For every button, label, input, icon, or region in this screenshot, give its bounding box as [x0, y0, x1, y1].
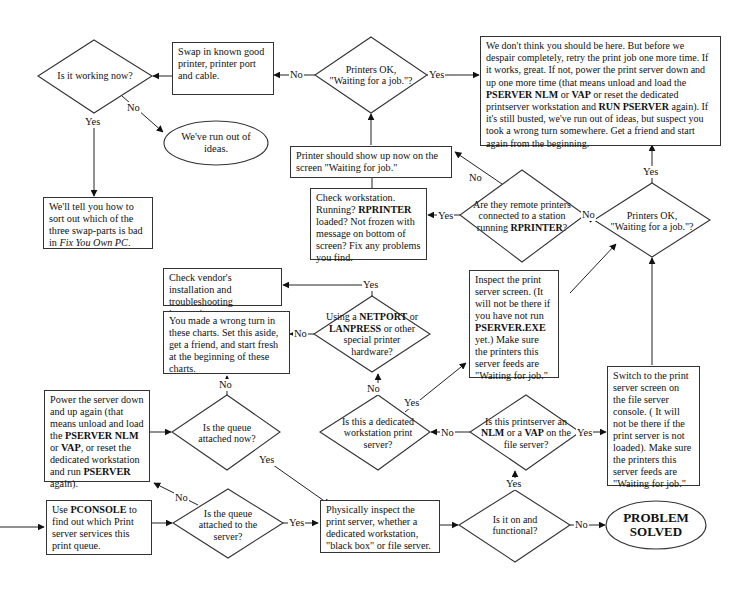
edge-label-no: No — [289, 69, 304, 81]
box-wrong-turn: You made a wrong turn in these charts. S… — [163, 311, 290, 374]
decision-nlm-or-vap: Is this printserver an NLM or a VAP on t… — [478, 405, 574, 461]
edge-label-yes: Yes — [258, 454, 275, 466]
box-check-workstation: Check workstation. Running? RPRINTER loa… — [310, 188, 427, 260]
box-swap-parts: Swap in known good printer, printer port… — [172, 42, 274, 95]
box-power-server: Power the server down and up again (that… — [44, 390, 150, 482]
edge-label-no: No — [366, 383, 381, 395]
decision-queue-attached-server: Is the queue attached to the server? — [190, 508, 266, 542]
terminal-run-out-of-ideas: We've run out of ideas. — [180, 128, 252, 158]
decision-printers-ok-right: Printers OK, "Waiting for a job."? — [602, 206, 702, 236]
box-printer-show-up: Printer should show up now on the screen… — [290, 146, 452, 178]
decision-dedicated-workstation: Is this a dedicated workstation print se… — [333, 410, 423, 456]
edge-label-yes: Yes — [84, 116, 101, 128]
box-inspect-screen: Inspect the print server screen. (It wil… — [469, 270, 559, 378]
edge-label-no: No — [440, 427, 455, 439]
terminal-problem-solved: PROBLEM SOLVED — [612, 510, 700, 540]
box-use-pconsole: Use PCONSOLE to find out which Print ser… — [46, 500, 152, 555]
edge-label-no: No — [126, 102, 141, 114]
decision-printers-ok-top: Printers OK, "Waiting for a job."? — [322, 60, 420, 90]
decision-is-it-working: Is it working now? — [45, 65, 145, 87]
box-sort-out: We'll tell you how to sort out which of … — [43, 197, 153, 249]
edge-label-yes: Yes — [642, 166, 659, 178]
decision-remote-printers: Are they remote printers connected to a … — [470, 190, 574, 242]
decision-using-netport: Using a NETPORT or LANPRESS or other spe… — [322, 308, 422, 360]
edge-label-yes: Yes — [428, 69, 445, 81]
edge-label-yes: Yes — [362, 279, 379, 291]
edge-label-no: No — [574, 519, 589, 531]
edge-label-no: No — [293, 328, 308, 340]
box-check-vendor: Check vendor's installation and troubles… — [163, 268, 282, 306]
box-physically-inspect: Physically inspect the print server, whe… — [320, 500, 440, 553]
edge-label-no: No — [581, 209, 596, 221]
box-dont-think: We don't think you should be here. But b… — [480, 36, 721, 146]
box-switch-screen: Switch to the print server screen on the… — [607, 366, 700, 486]
decision-on-functional: Is it on and functional? — [480, 512, 550, 538]
edge-label-yes: Yes — [505, 478, 522, 490]
edge-label-no: No — [218, 379, 233, 391]
edge-label-yes: Yes — [403, 397, 420, 409]
edge-label-no: No — [174, 492, 189, 504]
decision-queue-attached-now: Is the queue attached now? — [190, 415, 264, 451]
edge-label-yes: Yes — [576, 427, 593, 439]
edge-label-yes: Yes — [288, 517, 305, 529]
edge-label-no: No — [468, 172, 483, 184]
edge-label-yes: Yes — [437, 210, 454, 222]
